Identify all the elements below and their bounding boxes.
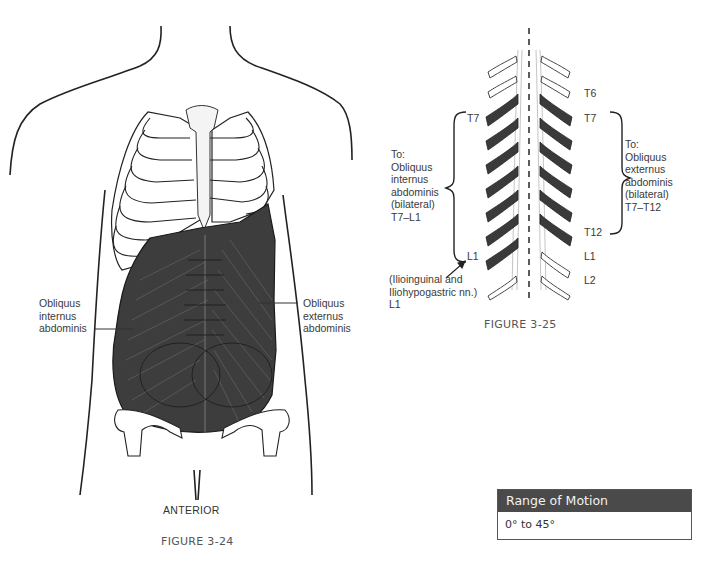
level-label-l1-right: L1 [584,250,596,262]
level-label-t7-right: T7 [584,112,596,124]
range-of-motion-value: 0° to 45° [498,512,691,538]
spine-rib-diagram [0,0,723,571]
level-label-t12-right: T12 [584,226,602,238]
bracket-line: abdominis [391,186,439,199]
bracket-line: (bilateral) [625,188,673,201]
nerve-note: (Ilioinguinal and Iliohypogastric nn.) L… [389,273,477,311]
level-label-l1-left: L1 [467,250,479,262]
level-label-t6-right: T6 [584,87,596,99]
figure-3-25-caption: FIGURE 3-25 [484,318,557,331]
bracket-line: internus [391,173,439,186]
level-label-t7-left: T7 [467,112,479,124]
bracket-text-externus: To: Obliquus externus abdominis (bilater… [625,138,673,213]
level-label-l2-right: L2 [584,274,596,286]
bracket-line: To: [625,138,673,151]
bracket-text-internus: To: Obliquus internus abdominis (bilater… [391,148,439,223]
note-line: Iliohypogastric nn.) [389,286,477,299]
bracket-line: To: [391,148,439,161]
bracket-line: T7–T12 [625,201,673,214]
note-line: (Ilioinguinal and [389,273,477,286]
note-line: L1 [389,298,477,311]
bracket-line: Obliquus [625,151,673,164]
bracket-line: abdominis [625,176,673,189]
bracket-line: Obliquus [391,161,439,174]
bracket-line: externus [625,163,673,176]
bracket-line: (bilateral) [391,198,439,211]
range-of-motion-title: Range of Motion [498,490,691,512]
bracket-line: T7–L1 [391,211,439,224]
range-of-motion-box: Range of Motion 0° to 45° [497,489,692,540]
